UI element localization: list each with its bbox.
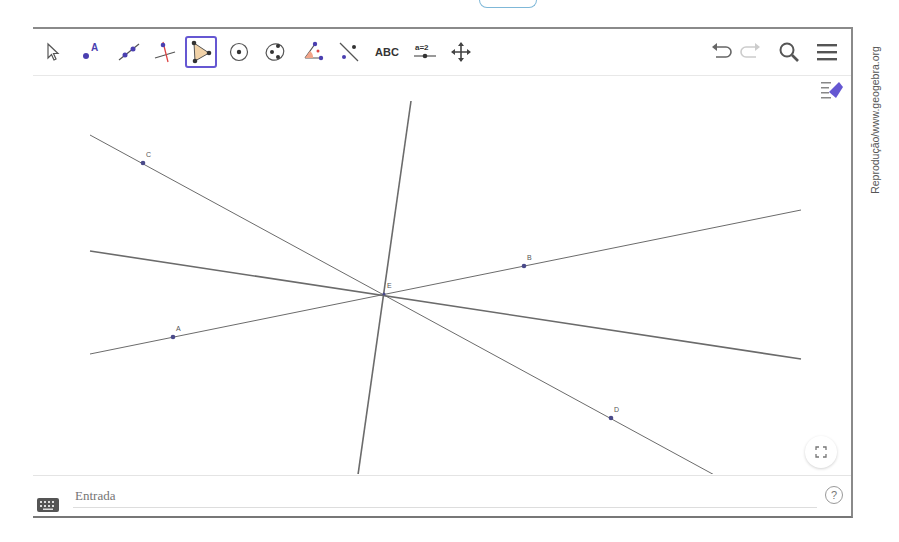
tool-slider[interactable]: a=2 [409, 36, 441, 68]
tool-polygon[interactable] [185, 36, 217, 68]
tool-reflect[interactable] [333, 36, 365, 68]
fullscreen-button[interactable] [805, 436, 837, 468]
svg-text:C: C [146, 151, 151, 158]
point-C[interactable]: C [141, 151, 151, 165]
search-button[interactable] [773, 36, 805, 68]
move-arrows-icon [450, 41, 472, 63]
algebra-input-field[interactable] [73, 485, 817, 508]
image-credit: Reprodução/www.geogebra.org [860, 25, 890, 215]
bisector-1[interactable] [90, 251, 801, 359]
svg-text:A: A [91, 42, 98, 53]
toolbar: A ABC [33, 29, 851, 76]
tool-angle[interactable] [297, 36, 329, 68]
top-tab-handle[interactable] [479, 0, 537, 8]
svg-text:A: A [176, 325, 181, 332]
help-button[interactable]: ? [825, 486, 843, 504]
point-D[interactable]: D [609, 406, 619, 420]
graphics-view[interactable]: CBADE [33, 76, 851, 474]
undo-icon [710, 42, 734, 62]
fullscreen-icon [815, 446, 827, 458]
svg-text:a=2: a=2 [415, 43, 429, 52]
text-tool-label: ABC [375, 46, 399, 58]
geogebra-app: A ABC [33, 27, 853, 518]
keyboard-icon [37, 498, 59, 512]
tool-text[interactable]: ABC [371, 36, 403, 68]
perpendicular-line-icon [153, 40, 177, 64]
geometry-drawing[interactable]: CBADE [33, 76, 851, 474]
circle-three-points-icon [263, 40, 287, 64]
bisector-2[interactable] [354, 101, 411, 474]
cursor-arrow-icon [43, 42, 63, 62]
reflect-line-icon [337, 40, 361, 64]
tool-circle-center-point[interactable] [223, 36, 255, 68]
tool-perpendicular-line[interactable] [149, 36, 181, 68]
redo-button[interactable] [734, 36, 766, 68]
hamburger-menu-icon [815, 41, 839, 63]
svg-text:E: E [387, 282, 392, 289]
slider-icon: a=2 [412, 40, 438, 64]
keyboard-button[interactable] [37, 498, 59, 512]
tool-move-graphics-view[interactable] [445, 36, 477, 68]
circle-center-icon [227, 40, 251, 64]
style-bar-toggle[interactable] [819, 78, 845, 102]
svg-text:B: B [527, 254, 532, 261]
menu-button[interactable] [811, 36, 843, 68]
line-through-A-B[interactable] [90, 210, 801, 354]
tool-point[interactable]: A [75, 36, 107, 68]
point-icon: A [79, 40, 103, 64]
tool-ellipse[interactable] [259, 36, 291, 68]
svg-text:D: D [614, 406, 619, 413]
point-B[interactable]: B [522, 254, 532, 268]
line-through-C-D[interactable] [90, 135, 764, 474]
input-bar: ? [33, 475, 851, 516]
line-icon [117, 40, 141, 64]
redo-icon [738, 42, 762, 62]
tool-move[interactable] [37, 36, 69, 68]
credit-text: Reprodução/www.geogebra.org [869, 46, 881, 194]
search-icon [777, 40, 801, 64]
angle-icon [301, 40, 325, 64]
style-bar-icon [819, 78, 845, 102]
point-A[interactable]: A [171, 325, 181, 339]
polygon-icon [189, 40, 213, 64]
tool-line[interactable] [113, 36, 145, 68]
